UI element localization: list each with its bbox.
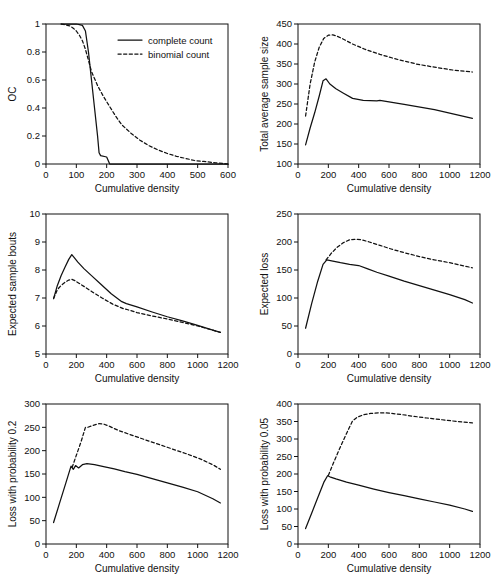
legend: complete countbinomial count bbox=[118, 35, 213, 60]
y-tick-label: 0.8 bbox=[27, 46, 40, 57]
y-tick-label: 9 bbox=[35, 236, 40, 247]
x-tick-label: 400 bbox=[99, 549, 115, 560]
plot-frame bbox=[298, 24, 480, 164]
x-tick-label: 1000 bbox=[439, 549, 460, 560]
x-tick-label: 200 bbox=[68, 359, 84, 370]
x-tick-label: 400 bbox=[99, 359, 115, 370]
panel-expected-sample-bouts: 0200400600800100012005678910Cumulative d… bbox=[0, 198, 252, 391]
x-tick-label: 800 bbox=[159, 549, 175, 560]
plot-frame bbox=[298, 404, 480, 544]
y-tick-label: 200 bbox=[276, 118, 292, 129]
y-tick-label: 10 bbox=[29, 208, 40, 219]
x-tick-label: 1200 bbox=[217, 549, 238, 560]
y-tick-label: 450 bbox=[276, 18, 292, 29]
panel-loss-with-probability-0.05: 0200400600800100012000501001502002503003… bbox=[252, 388, 504, 578]
y-tick-label: 300 bbox=[276, 78, 292, 89]
legend-label-complete: complete count bbox=[148, 35, 213, 46]
x-tick-label: 600 bbox=[129, 359, 145, 370]
x-tick-label: 0 bbox=[43, 549, 48, 560]
x-tick-label: 600 bbox=[129, 549, 145, 560]
y-tick-label: 200 bbox=[276, 468, 292, 479]
x-tick-label: 200 bbox=[320, 549, 336, 560]
plot-frame bbox=[298, 214, 480, 354]
y-tick-label: 400 bbox=[276, 398, 292, 409]
y-tick-label: 0 bbox=[35, 158, 40, 169]
x-tick-label: 400 bbox=[351, 549, 367, 560]
x-tick-label: 0 bbox=[295, 359, 300, 370]
series-dashed bbox=[306, 35, 473, 116]
y-tick-label: 200 bbox=[276, 236, 292, 247]
y-tick-label: 0 bbox=[35, 538, 40, 549]
y-tick-label: 150 bbox=[276, 138, 292, 149]
plot-total-average-sample-size: 0200400600800100012001001502002503003504… bbox=[252, 8, 504, 201]
y-tick-label: 7 bbox=[35, 292, 40, 303]
x-tick-label: 1200 bbox=[217, 359, 238, 370]
y-tick-label: 100 bbox=[276, 503, 292, 514]
x-tick-label: 200 bbox=[68, 549, 84, 560]
panel-expected-loss: 020040060080010001200050100150200250Cumu… bbox=[252, 198, 504, 391]
x-tick-label: 0 bbox=[295, 549, 300, 560]
x-tick-label: 1200 bbox=[469, 169, 490, 180]
y-tick-label: 250 bbox=[276, 451, 292, 462]
y-axis-label: Loss with probability 0.2 bbox=[7, 420, 18, 527]
x-axis-label: Cumulative density bbox=[95, 563, 179, 574]
x-tick-label: 300 bbox=[129, 169, 145, 180]
x-axis-label: Cumulative density bbox=[347, 373, 431, 384]
y-tick-label: 250 bbox=[276, 208, 292, 219]
y-tick-label: 300 bbox=[24, 398, 40, 409]
series-dashed bbox=[328, 413, 472, 476]
plot-frame bbox=[46, 214, 228, 354]
y-axis-label: Loss with probability 0.05 bbox=[259, 417, 270, 530]
x-tick-label: 200 bbox=[320, 359, 336, 370]
y-tick-label: 8 bbox=[35, 264, 40, 275]
panel-loss-with-probability-0.2: 020040060080010001200050100150200250300C… bbox=[0, 388, 252, 578]
y-axis-label: Expected loss bbox=[259, 253, 270, 315]
series-dashed bbox=[326, 239, 472, 268]
plot-loss-with-probability-0.2: 020040060080010001200050100150200250300C… bbox=[0, 388, 252, 578]
y-tick-label: 100 bbox=[276, 158, 292, 169]
x-tick-label: 1000 bbox=[439, 359, 460, 370]
x-axis-label: Cumulative density bbox=[347, 563, 431, 574]
x-tick-label: 100 bbox=[68, 169, 84, 180]
x-tick-label: 800 bbox=[159, 359, 175, 370]
x-tick-label: 400 bbox=[351, 359, 367, 370]
y-tick-label: 0.6 bbox=[27, 74, 40, 85]
y-tick-label: 50 bbox=[29, 515, 40, 526]
y-tick-label: 150 bbox=[24, 468, 40, 479]
x-tick-label: 600 bbox=[381, 359, 397, 370]
x-tick-label: 0 bbox=[43, 169, 48, 180]
x-tick-label: 600 bbox=[381, 169, 397, 180]
series-solid bbox=[54, 255, 221, 333]
y-tick-label: 400 bbox=[276, 38, 292, 49]
x-tick-label: 1000 bbox=[187, 359, 208, 370]
y-tick-label: 100 bbox=[276, 292, 292, 303]
y-tick-label: 50 bbox=[281, 320, 292, 331]
x-tick-label: 0 bbox=[43, 359, 48, 370]
x-tick-label: 800 bbox=[411, 549, 427, 560]
x-tick-label: 800 bbox=[411, 169, 427, 180]
y-tick-label: 0.2 bbox=[27, 130, 40, 141]
y-tick-label: 150 bbox=[276, 264, 292, 275]
y-axis-label: Total average sample size bbox=[259, 36, 270, 152]
x-tick-label: 1000 bbox=[187, 549, 208, 560]
y-tick-label: 0.4 bbox=[27, 102, 40, 113]
y-tick-label: 1 bbox=[35, 18, 40, 29]
x-tick-label: 600 bbox=[381, 549, 397, 560]
series-solid bbox=[54, 464, 221, 523]
series-solid bbox=[306, 260, 473, 328]
x-tick-label: 800 bbox=[411, 359, 427, 370]
y-tick-label: 50 bbox=[281, 521, 292, 532]
y-tick-label: 350 bbox=[276, 416, 292, 427]
y-axis-label: Expected sample bouts bbox=[7, 232, 18, 336]
x-tick-label: 200 bbox=[320, 169, 336, 180]
y-tick-label: 6 bbox=[35, 320, 40, 331]
y-axis-label: OC bbox=[7, 87, 18, 102]
x-tick-label: 1200 bbox=[469, 359, 490, 370]
y-tick-label: 300 bbox=[276, 433, 292, 444]
x-axis-label: Cumulative density bbox=[95, 183, 179, 194]
series-dashed bbox=[72, 424, 220, 470]
y-tick-label: 100 bbox=[24, 492, 40, 503]
plot-expected-loss: 020040060080010001200050100150200250Cumu… bbox=[252, 198, 504, 391]
y-tick-label: 250 bbox=[276, 98, 292, 109]
x-tick-label: 500 bbox=[190, 169, 206, 180]
